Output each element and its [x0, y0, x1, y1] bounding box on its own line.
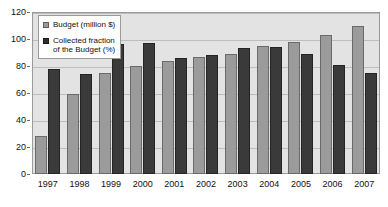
bar — [206, 55, 218, 174]
y-tick-label: 20 — [16, 143, 26, 152]
x-tick-label: 2002 — [196, 179, 216, 189]
x-tick-label: 2006 — [323, 179, 343, 189]
bar — [301, 54, 313, 174]
bar — [162, 61, 174, 174]
bar-group — [348, 12, 380, 174]
bar-group — [190, 12, 222, 174]
bar — [175, 58, 187, 174]
x-tick-label: 2005 — [291, 179, 311, 189]
legend-item: Budget (million $) — [43, 20, 115, 29]
y-tick-mark — [27, 66, 30, 67]
x-tick-label: 2000 — [133, 179, 153, 189]
x-axis: 1997199819992000200120022003200420052006… — [32, 176, 380, 196]
y-tick-label: 40 — [16, 116, 26, 125]
legend-label: Collected fraction of the Budget (%) — [53, 36, 115, 54]
bar — [352, 26, 364, 175]
bar-group — [253, 12, 285, 174]
bar — [99, 73, 111, 174]
bar — [288, 42, 300, 174]
x-tick-label: 2001 — [164, 179, 184, 189]
x-tick-label: 1998 — [69, 179, 89, 189]
y-axis: 020406080100120 — [0, 12, 30, 174]
bar — [48, 69, 60, 174]
bar — [80, 74, 92, 174]
x-tick-label: 1997 — [38, 179, 58, 189]
x-tick-label: 1999 — [101, 179, 121, 189]
chart-legend: Budget (million $)Collected fraction of … — [38, 15, 121, 59]
bar — [35, 136, 47, 174]
y-tick-label: 100 — [11, 35, 26, 44]
bar — [333, 65, 345, 174]
y-tick-mark — [27, 39, 30, 40]
x-tick-label: 2003 — [228, 179, 248, 189]
bar — [193, 57, 205, 174]
x-tick-label: 2004 — [259, 179, 279, 189]
y-tick-label: 0 — [21, 170, 26, 179]
bar-group — [159, 12, 191, 174]
legend-label: Budget (million $) — [53, 20, 115, 29]
bar-group — [317, 12, 349, 174]
bar — [225, 54, 237, 174]
y-tick-mark — [27, 174, 30, 175]
y-tick-label: 80 — [16, 62, 26, 71]
y-tick-mark — [27, 120, 30, 121]
y-tick-label: 120 — [11, 8, 26, 17]
legend-swatch-icon — [43, 38, 49, 44]
x-tick-label: 2007 — [354, 179, 374, 189]
bar — [320, 35, 332, 174]
y-tick-mark — [27, 93, 30, 94]
bar — [257, 46, 269, 174]
bar — [143, 43, 155, 174]
legend-swatch-icon — [43, 22, 49, 28]
legend-item: Collected fraction of the Budget (%) — [43, 36, 115, 54]
bar-group — [127, 12, 159, 174]
bar — [365, 73, 377, 174]
y-tick-label: 60 — [16, 89, 26, 98]
bar — [238, 48, 250, 174]
y-tick-mark — [27, 147, 30, 148]
y-tick-mark — [27, 12, 30, 13]
bar — [130, 66, 142, 174]
bar-group — [222, 12, 254, 174]
bar — [67, 94, 79, 174]
bar-group — [285, 12, 317, 174]
bar — [270, 47, 282, 174]
bar-chart: 020406080100120 199719981999200020012002… — [0, 0, 388, 207]
bar — [112, 44, 124, 174]
